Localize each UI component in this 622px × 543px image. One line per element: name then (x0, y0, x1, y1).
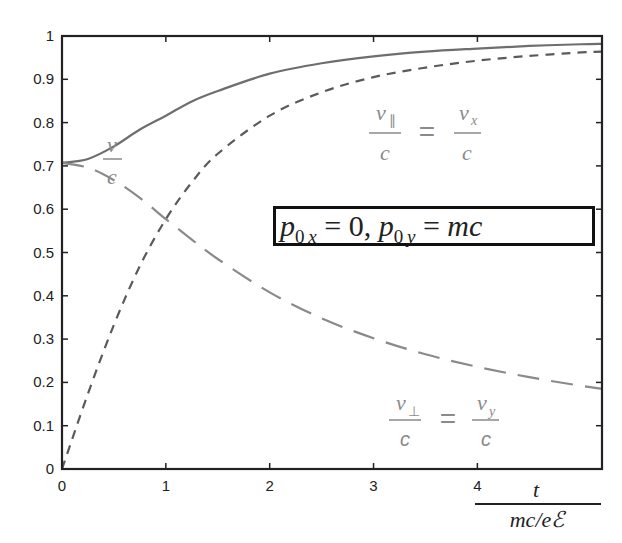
y-tick-label: 0 (46, 460, 54, 477)
annotation-v-perpendicular: v ⊥ c = v y c (389, 390, 499, 450)
chart: 0123400.10.20.30.40.50.60.70.80.91 v c v… (0, 0, 622, 543)
plot-lines (62, 44, 602, 469)
v-numerator: v (107, 132, 117, 157)
x-tick-label: 3 (369, 477, 377, 494)
y-tick-label: 0.5 (33, 244, 54, 261)
axes-frame (62, 36, 602, 469)
y-tick-label: 0.3 (33, 330, 54, 347)
y-tick-label: 0.1 (33, 417, 54, 434)
sub-zero: 0 (295, 226, 305, 247)
p-symbol: p (280, 209, 295, 242)
mc-value: mc (447, 209, 482, 242)
sub-zero-2: 0 (394, 226, 404, 247)
y-tick-label: 0.4 (33, 287, 54, 304)
vpar-sub: ∥ (389, 112, 396, 128)
y-tick-label: 1 (46, 27, 54, 44)
vx-num: v (459, 100, 469, 125)
equals-zero: = 0, (317, 209, 379, 242)
vy-den: c (481, 428, 491, 450)
x-axis-label: t mc/eℰ (475, 477, 601, 532)
series-line-0 (62, 44, 602, 163)
initial-condition-box: p0 x = 0, p0 y = mc (273, 206, 595, 246)
x-tick-label: 1 (162, 477, 170, 494)
vperp-num: v (396, 390, 406, 415)
sub-x: x (308, 226, 316, 247)
y-tick-label: 0.7 (33, 157, 54, 174)
vy-sub: y (487, 404, 496, 419)
y-tick-label: 0.9 (33, 70, 54, 87)
vpar-den: c (380, 140, 390, 165)
vy-num: v (477, 390, 487, 415)
y-tick-label: 0.8 (33, 114, 54, 131)
vperp-den: c (400, 428, 410, 450)
x-label-numerator: t (533, 477, 540, 502)
c-denominator: c (107, 164, 117, 189)
equals: = (415, 209, 447, 242)
vperp-sub: ⊥ (408, 403, 420, 419)
vx-sub: x (470, 113, 478, 128)
annotation-v-parallel: v ∥ c = v x c (369, 100, 481, 165)
series-line-2 (62, 163, 602, 389)
y-tick-label: 0.2 (33, 373, 54, 390)
p-symbol-2: p (379, 209, 394, 242)
axis-ticks: 0123400.10.20.30.40.50.60.70.80.91 (33, 27, 602, 494)
y-tick-label: 0.6 (33, 200, 54, 217)
vx-den: c (462, 140, 472, 165)
x-label-denominator: mc/eℰ (510, 507, 568, 532)
x-tick-label: 0 (58, 477, 66, 494)
series-line-1 (62, 52, 602, 469)
x-tick-label: 2 (266, 477, 274, 494)
x-tick-label: 4 (473, 477, 481, 494)
vpar-eq: = (419, 116, 435, 147)
annotation-v-over-c: v c (103, 132, 122, 189)
vpar-num: v (376, 100, 386, 125)
vperp-eq: = (440, 403, 456, 434)
